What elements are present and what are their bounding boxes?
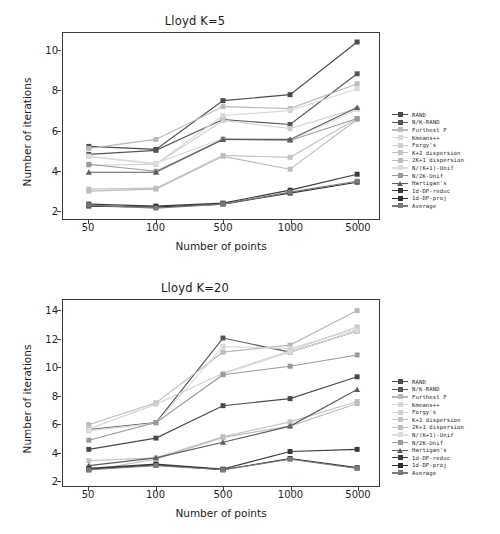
data-point <box>86 146 91 151</box>
x-tick-label: 1000 <box>278 489 303 500</box>
data-point <box>221 467 226 472</box>
data-point <box>153 463 158 468</box>
legend-label: Forgy's <box>412 409 436 415</box>
data-point <box>355 116 360 121</box>
legend-item[interactable]: Furthest P <box>392 393 500 401</box>
plot-area-bottom <box>62 299 380 487</box>
series-k-2-dispersion <box>86 399 359 463</box>
legend-item[interactable]: N/2K-Unif <box>392 172 500 180</box>
series-furthest-p <box>86 308 359 427</box>
data-point <box>288 126 293 131</box>
plot-area-top <box>62 32 380 220</box>
data-point <box>355 401 360 406</box>
legend-item[interactable]: Hartigan's <box>392 446 500 454</box>
legend-marker-icon <box>392 401 408 408</box>
data-point <box>86 447 91 452</box>
legend-item[interactable]: 2K+1 dispersion <box>392 424 500 432</box>
legend-label: Forgy's <box>412 142 436 148</box>
legend-item[interactable]: Average <box>392 469 500 477</box>
legend-item[interactable]: Forgy's <box>392 141 500 149</box>
legend-label: N/K-RAND <box>412 119 440 125</box>
legend-label: N/2K-Unif <box>412 173 443 179</box>
data-point <box>221 154 226 159</box>
legend-item[interactable]: Average <box>392 202 500 210</box>
legend-marker-icon <box>392 462 408 469</box>
legend-label: 1d-DP-reduc <box>412 455 450 461</box>
legend-item[interactable]: RAND <box>392 378 500 386</box>
legend-item[interactable]: 1d-DP-reduc <box>392 187 500 195</box>
legend-marker-icon <box>392 439 408 446</box>
legend-item[interactable]: Hartigan's <box>392 179 500 187</box>
legend-item[interactable]: Kmeans++ <box>392 134 500 142</box>
data-point <box>86 458 91 463</box>
data-point <box>86 428 91 433</box>
data-point <box>355 324 360 329</box>
legend-item[interactable]: K+2 dispersion <box>392 416 500 424</box>
legend-marker-icon <box>392 386 408 393</box>
legend-item[interactable]: N/(K+1)-Unif <box>392 431 500 439</box>
legend-label: Hartigan's <box>412 180 447 186</box>
x-tick-label: 5000 <box>345 489 370 500</box>
legend-marker-icon <box>392 469 408 476</box>
legend-item[interactable]: Kmeans++ <box>392 401 500 409</box>
data-point <box>86 438 91 443</box>
legend-marker-icon <box>392 195 408 202</box>
legend-top: RANDN/K-RANDFurthest PKmeans++Forgy'sK+2… <box>392 0 500 267</box>
plot-lines-bottom <box>63 300 379 486</box>
legend-label: Kmeans++ <box>412 402 440 408</box>
series-n-2k-unif <box>86 352 359 442</box>
data-point <box>153 402 158 407</box>
legend-item[interactable]: N/K-RAND <box>392 386 500 394</box>
data-point <box>221 202 226 207</box>
legend-label: Furthest P <box>412 127 447 133</box>
legend-label: K+2 dispersion <box>412 417 461 423</box>
x-tick-label: 500 <box>213 489 232 500</box>
x-axis-ticks-bottom: 5010050010005000 <box>62 489 380 507</box>
legend-item[interactable]: Forgy's <box>392 408 500 416</box>
chart-title-top: Lloyd K=5 <box>0 14 390 28</box>
x-tick-label: 50 <box>82 222 95 233</box>
chart-panel-lloyd-k20: Lloyd K=20 Number of iterations 24681012… <box>0 267 500 534</box>
legend-item[interactable]: RAND <box>392 111 500 119</box>
legend-label: N/(K+1)-Unif <box>412 165 454 171</box>
chart-title-bottom: Lloyd K=20 <box>0 281 390 295</box>
legend-label: 1d-DP-proj <box>412 462 447 468</box>
legend-item[interactable]: 1d-DP-proj <box>392 195 500 203</box>
chart-panel-lloyd-k5: Lloyd K=5 Number of iterations 246810 50… <box>0 0 500 267</box>
x-axis-label-top: Number of points <box>62 240 380 252</box>
x-tick-label: 100 <box>146 222 165 233</box>
legend-marker-icon <box>392 454 408 461</box>
legend-marker-icon <box>392 409 408 416</box>
data-point <box>355 308 360 313</box>
data-point <box>288 108 293 113</box>
y-tick-mark <box>57 453 61 454</box>
legend-marker-icon <box>392 393 408 400</box>
data-point <box>221 118 226 123</box>
series-line <box>89 42 357 149</box>
legend-label: 2K+1 dispersion <box>412 157 464 163</box>
legend-item[interactable]: K+2 dispersion <box>392 149 500 157</box>
legend-item[interactable]: N/2K-Unif <box>392 439 500 447</box>
data-point <box>355 39 360 44</box>
data-point <box>288 92 293 97</box>
data-point <box>288 155 293 160</box>
data-point <box>221 104 226 109</box>
legend-item[interactable]: 1d-DP-proj <box>392 462 500 470</box>
legend-label: 1d-DP-proj <box>412 195 447 201</box>
data-point <box>221 98 226 103</box>
figure-root: Lloyd K=5 Number of iterations 246810 50… <box>0 0 500 534</box>
data-point <box>355 329 360 334</box>
legend-item[interactable]: Furthest P <box>392 126 500 134</box>
data-point <box>86 467 91 472</box>
legend-item[interactable]: N/K-RAND <box>392 119 500 127</box>
legend-item[interactable]: 2K+1 dispersion <box>392 157 500 165</box>
x-tick-label: 100 <box>146 489 165 500</box>
data-point <box>355 352 360 357</box>
data-point <box>221 113 226 118</box>
legend-item[interactable]: 1d-DP-reduc <box>392 454 500 462</box>
legend-label: Average <box>412 470 436 476</box>
legend-marker-icon <box>392 187 408 194</box>
y-tick-mark <box>57 90 61 91</box>
data-point <box>221 350 226 355</box>
legend-item[interactable]: N/(K+1)-Unif <box>392 164 500 172</box>
